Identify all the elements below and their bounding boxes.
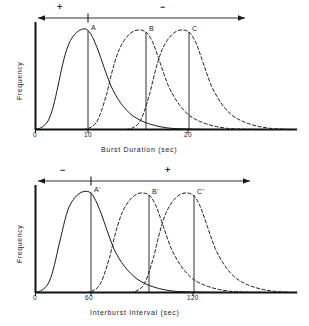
yaxis-title-bottom: Frequency [16, 225, 23, 263]
curve-label-c-prime: C' [197, 188, 204, 195]
yaxis-title-top: Frequency [16, 62, 23, 100]
axes-bottom [35, 185, 297, 296]
curve-c-prime [130, 193, 297, 293]
curve-label-c: C [192, 25, 198, 32]
sign-right-bottom: + [165, 166, 170, 175]
xtick-bottom-1: 60 [85, 295, 93, 302]
sign-left-top: + [57, 3, 62, 12]
xtick-top-2: 20 [184, 132, 192, 139]
curve-label-a: A [91, 24, 96, 31]
xtick-top-1: 10 [84, 132, 92, 139]
axes-top [35, 22, 297, 133]
xtick-bottom-0: 0 [33, 295, 37, 302]
curve-c [126, 30, 297, 130]
curve-label-b: B [149, 25, 154, 32]
curve-label-a-prime: A' [94, 186, 101, 193]
panel-top-graphic [0, 0, 309, 163]
xtick-top-0: 0 [33, 132, 37, 139]
figure-container: + − A B C 0 10 20 Burst Duration (sec) F… [0, 0, 309, 326]
sign-right-top: − [160, 3, 165, 12]
curve-a-prime [35, 191, 243, 292]
sign-left-bottom: − [60, 166, 65, 175]
curve-label-b-prime: B' [152, 188, 159, 195]
xaxis-title-top: Burst Duration (sec) [101, 146, 177, 153]
panel-burst-duration: + − A B C 0 10 20 Burst Duration (sec) F… [0, 0, 309, 163]
panel-interburst-interval: − + A' B' C' 0 60 120 Interburst Interva… [0, 163, 309, 326]
marker-lines-top [88, 31, 189, 130]
curve-b-prime [86, 193, 283, 293]
curve-b [83, 30, 280, 130]
direction-arrow-top [38, 14, 245, 23]
marker-lines-bottom [91, 193, 194, 293]
xaxis-title-bottom: Interburst Interval (sec) [90, 309, 179, 316]
direction-arrow-bottom [38, 177, 250, 186]
xtick-bottom-2: 120 [187, 295, 199, 302]
